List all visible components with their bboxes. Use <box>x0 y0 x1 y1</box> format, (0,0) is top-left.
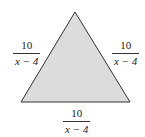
left-numerator: 10 <box>19 40 34 53</box>
left-denominator: x − 4 <box>13 54 40 67</box>
right-denominator: x − 4 <box>112 54 139 67</box>
left-side-label: 10 x − 4 <box>13 40 40 67</box>
right-numerator: 10 <box>118 40 133 53</box>
right-side-label: 10 x − 4 <box>112 40 139 67</box>
bottom-numerator: 10 <box>69 108 84 121</box>
bottom-side-label: 10 x − 4 <box>63 108 90 135</box>
bottom-denominator: x − 4 <box>63 122 90 135</box>
